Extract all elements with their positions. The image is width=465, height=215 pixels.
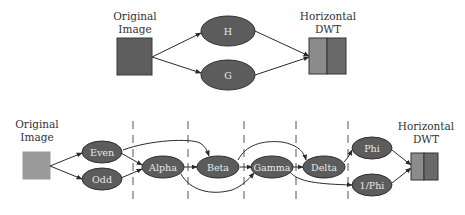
node-even-label: Even [90,147,114,158]
top-node-h-label: H [224,26,232,37]
node-odd-label: Odd [92,174,112,185]
edge-phi-to-dwt [392,150,411,165]
top-dwt-low-band [309,38,327,74]
edge-even-to-beta [123,140,209,156]
node-beta-label: Beta [207,162,229,173]
node-gamma: Gamma [251,156,293,178]
edge-image-to-odd [50,166,82,179]
top-edge-image-to-g [152,57,201,73]
bottom-input-label-line2: Image [20,131,53,143]
node-alpha-label: Alpha [148,162,177,173]
top-node-g: G [201,60,255,90]
node-gamma-label: Gamma [254,162,291,173]
top-node-g-label: G [224,70,232,81]
node-phi: Phi [352,137,392,159]
edge-inv-phi-to-dwt [392,168,411,183]
node-inv-phi: 1/Phi [352,174,392,196]
bottom-dwt-box [411,153,438,180]
bottom-original-image-box [23,152,50,179]
bottom-dwt-high-band [424,153,438,180]
top-edge-image-to-h [152,33,201,57]
lifting-dwt-diagram: Original Image H G Horizontal DWT Origin… [0,0,465,215]
top-original-image-box [117,38,152,75]
edge-odd-to-alpha [121,169,142,178]
top-input-label-line1: Original [113,10,157,22]
top-edge-h-to-dwt [255,31,309,56]
top-dwt-high-band [327,38,346,74]
bottom-output-label-line1: Horizontal [398,120,455,132]
top-output-label-line2: DWT [315,23,341,35]
top-node-h: H [201,16,255,46]
top-input-label-line2: Image [118,23,151,35]
top-output-label-line1: Horizontal [300,10,357,22]
node-even: Even [82,141,122,163]
top-edge-g-to-dwt [255,57,309,75]
node-alpha: Alpha [142,156,184,178]
node-beta: Beta [197,156,239,178]
node-delta: Delta [303,156,345,178]
bottom-dwt-low-band [411,153,424,180]
bottom-input-label-line1: Original [15,118,59,130]
edge-image-to-even [50,153,82,166]
top-dwt-box [309,38,346,74]
node-odd: Odd [82,168,122,190]
bottom-output-label-line2: DWT [413,133,439,145]
bottom-diagram: Original Image Even Odd Alpha [15,118,455,200]
top-diagram: Original Image H G Horizontal DWT [113,10,357,90]
edge-even-to-alpha [121,153,142,165]
node-phi-label: Phi [364,143,380,154]
node-inv-phi-label: 1/Phi [360,180,385,191]
node-delta-label: Delta [311,162,337,173]
